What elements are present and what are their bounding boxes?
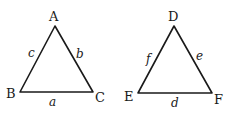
vertex-b-label: B xyxy=(6,86,16,101)
side-a-label: a xyxy=(49,95,56,109)
side-c-label: c xyxy=(28,46,35,60)
triangle-abc: A B C a b c xyxy=(6,9,105,109)
vertex-a-label: A xyxy=(48,9,59,24)
vertex-c-label: C xyxy=(95,90,105,105)
side-d-label: d xyxy=(171,96,179,110)
side-b-label: b xyxy=(76,47,84,61)
triangles-diagram: A B C a b c D E F d e f xyxy=(0,0,225,114)
side-e-label: e xyxy=(196,49,203,63)
triangle-def: D E F d e f xyxy=(124,9,223,110)
side-f-label: f xyxy=(145,52,153,66)
vertex-e-label: E xyxy=(124,89,134,104)
vertex-d-label: D xyxy=(168,9,178,24)
vertex-f-label: F xyxy=(214,92,223,107)
